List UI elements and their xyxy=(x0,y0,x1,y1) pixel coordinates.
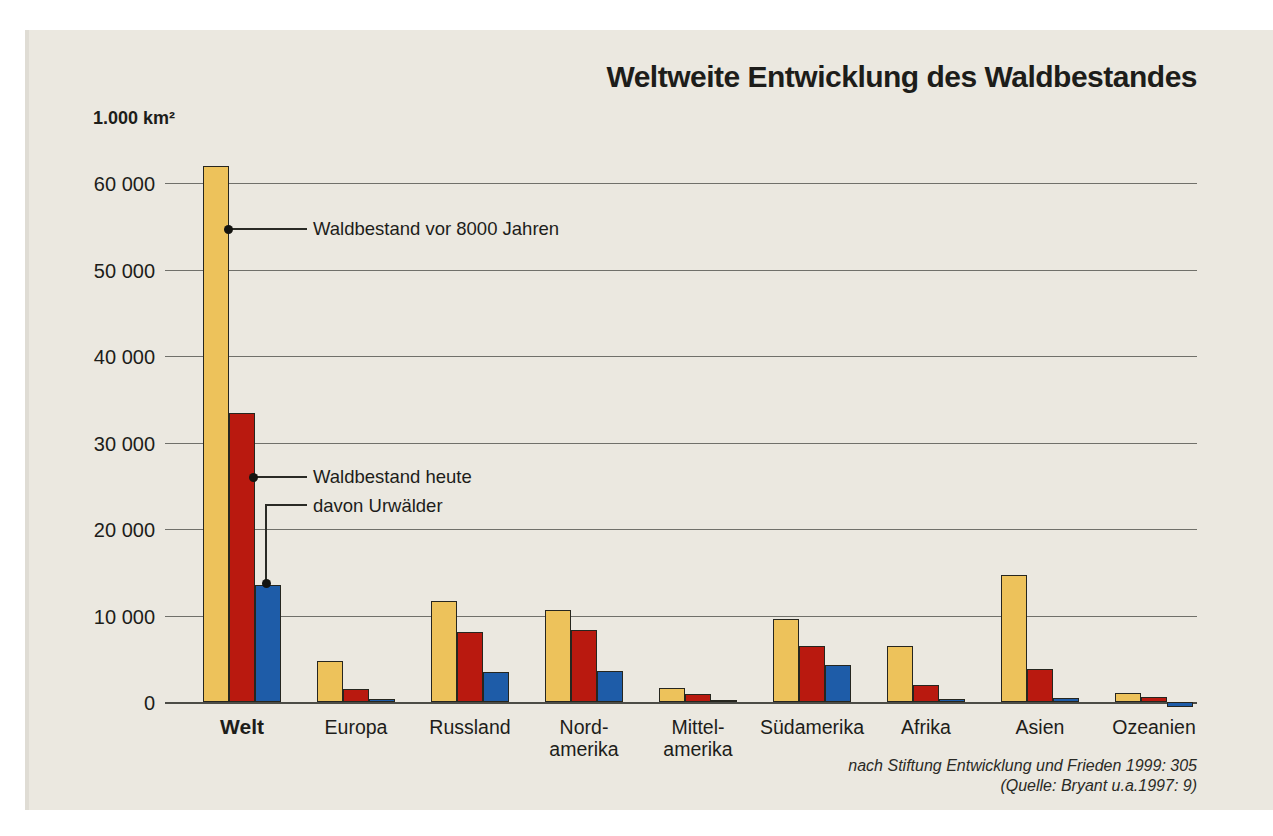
bar xyxy=(711,700,737,702)
y-tick-label-20000: 20 000 xyxy=(70,519,155,542)
annotation-line-ancient xyxy=(231,228,307,230)
bar xyxy=(799,646,825,702)
bar xyxy=(939,699,965,702)
category-label-asien: Asien xyxy=(975,716,1105,738)
source-citation: nach Stiftung Entwicklung und Frieden 19… xyxy=(848,756,1197,796)
gridline-60000 xyxy=(165,183,1197,184)
bar xyxy=(1115,693,1141,702)
bar xyxy=(1053,698,1079,702)
plot-area: 60 00050 00040 00030 00020 00010 0000Wel… xyxy=(25,30,1273,810)
y-tick-label-0: 0 xyxy=(70,692,155,715)
category-label-mittelamerika: Mittel-amerika xyxy=(633,716,763,760)
annotation-line-today xyxy=(256,476,307,478)
bar xyxy=(457,632,483,702)
annotation-dot-primeval xyxy=(262,579,271,588)
bar xyxy=(255,585,281,702)
source-line-2: (Quelle: Bryant u.a.1997: 9) xyxy=(848,776,1197,796)
annotation-label-today: Waldbestand heute xyxy=(313,466,472,488)
bar xyxy=(1001,575,1027,702)
annotation-label-primeval: davon Urwälder xyxy=(313,495,443,517)
y-tick-label-30000: 30 000 xyxy=(70,432,155,455)
category-label-welt: Welt xyxy=(177,716,307,738)
bar xyxy=(887,646,913,702)
annotation-line-primeval-vertical xyxy=(265,504,267,582)
category-label-russland: Russland xyxy=(405,716,535,738)
gridline-50000 xyxy=(165,270,1197,271)
gridline-30000 xyxy=(165,443,1197,444)
bar xyxy=(483,672,509,702)
annotation-dot-ancient xyxy=(224,225,233,234)
bar xyxy=(571,630,597,702)
category-label-afrika: Afrika xyxy=(861,716,991,738)
category-label-sdamerika: Südamerika xyxy=(747,716,877,738)
bar xyxy=(431,601,457,702)
y-tick-label-50000: 50 000 xyxy=(70,259,155,282)
bar xyxy=(1027,669,1053,702)
bar xyxy=(343,689,369,702)
chart-panel: Weltweite Entwicklung des Waldbestandes … xyxy=(25,30,1273,810)
bar xyxy=(369,699,395,702)
bar xyxy=(545,610,571,702)
bar xyxy=(685,694,711,702)
gridline-0 xyxy=(165,702,1197,704)
y-tick-label-60000: 60 000 xyxy=(70,173,155,196)
category-label-ozeanien: Ozeanien xyxy=(1089,716,1219,738)
bar xyxy=(229,413,255,702)
gridline-10000 xyxy=(165,616,1197,617)
y-tick-label-10000: 10 000 xyxy=(70,605,155,628)
source-line-1: nach Stiftung Entwicklung und Frieden 19… xyxy=(848,756,1197,776)
bar xyxy=(913,685,939,702)
annotation-line-primeval-horizontal xyxy=(266,504,307,506)
gridline-40000 xyxy=(165,356,1197,357)
bar xyxy=(597,671,623,702)
y-tick-label-40000: 40 000 xyxy=(70,346,155,369)
bar xyxy=(773,619,799,702)
scanned-page: Weltweite Entwicklung des Waldbestandes … xyxy=(0,0,1273,836)
bar xyxy=(203,166,229,702)
bar xyxy=(659,688,685,702)
bar xyxy=(1167,702,1193,707)
bar xyxy=(825,665,851,702)
annotation-label-ancient: Waldbestand vor 8000 Jahren xyxy=(313,218,559,240)
bar xyxy=(1141,697,1167,702)
annotation-dot-today xyxy=(249,473,258,482)
category-label-nordamerika: Nord-amerika xyxy=(519,716,649,760)
gridline-20000 xyxy=(165,529,1197,530)
bar xyxy=(317,661,343,702)
category-label-europa: Europa xyxy=(291,716,421,738)
